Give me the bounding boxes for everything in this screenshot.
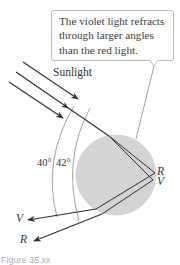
callout-leader-line <box>136 66 154 139</box>
callout-box: The violet light refracts through larger… <box>51 10 174 61</box>
callout-line-3: than the red light. <box>59 43 173 57</box>
callout-line-2: through larger angles <box>59 28 173 42</box>
droplet-label-violet: V <box>157 175 164 187</box>
sunlight-arrow-bottom <box>9 82 63 118</box>
angle-label-40: 40° <box>37 157 52 168</box>
exit-label-red: R <box>20 233 27 245</box>
angle-label-42: 42° <box>56 157 71 168</box>
sunlight-ray-main <box>16 72 109 136</box>
exit-arrow-red <box>34 214 102 241</box>
exit-label-violet: V <box>16 212 23 224</box>
callout-line-1: The violet light refracts <box>59 14 173 28</box>
sunlight-label: Sunlight <box>53 66 92 78</box>
exit-arrow-violet <box>28 209 96 220</box>
figure-caption: Figure 35.xx <box>1 255 51 265</box>
water-droplet <box>76 135 156 215</box>
